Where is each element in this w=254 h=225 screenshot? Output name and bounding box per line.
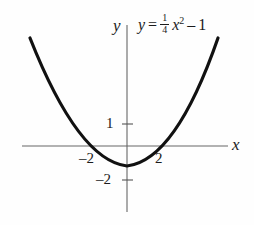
equation-minus-sign: – (187, 17, 195, 33)
fraction-denominator: 4 (160, 25, 169, 36)
x-axis-label: x (232, 136, 240, 153)
equation-exponent: 2 (179, 15, 184, 26)
plot-canvas (0, 0, 254, 225)
equation-annotation: y = 1 4 x2 – 1 (138, 14, 206, 36)
equation-fraction: 1 4 (160, 13, 169, 35)
equation-lhs: y (138, 17, 145, 33)
y-axis-label: y (113, 17, 121, 34)
y-tick-label-1: 1 (106, 116, 114, 131)
equation-equals-sign: = (148, 17, 157, 33)
equation-variable-term: x2 (172, 17, 184, 33)
fraction-numerator: 1 (160, 13, 169, 25)
equation-constant: 1 (198, 17, 206, 33)
parabola-curve (30, 38, 218, 166)
x-tick-label-neg2: –2 (79, 151, 94, 166)
x-tick-label-2: 2 (155, 151, 163, 166)
graph-figure: y x y = 1 4 x2 – 1 1 –2 –2 2 (0, 0, 254, 225)
y-tick-label-neg2: –2 (96, 172, 111, 187)
